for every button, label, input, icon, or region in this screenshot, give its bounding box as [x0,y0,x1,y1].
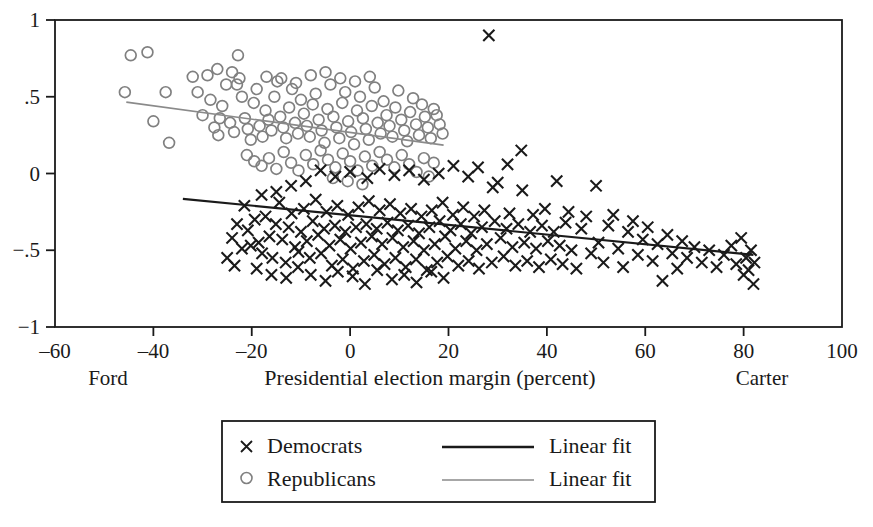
x-tick-label: –20 [235,339,268,363]
legend-label-linear-fit-republicans: Linear fit [549,466,631,491]
x-tick-label: 60 [635,339,656,363]
x-tick-label: 40 [536,339,557,363]
legend-label-republicans: Republicans [267,466,376,491]
legend-label-democrats: Democrats [267,433,362,458]
y-tick-label: 0 [30,162,41,186]
x-tick-label: 0 [345,339,356,363]
axis-endpoint-label-left: Ford [88,366,128,390]
x-tick-label: 100 [826,339,858,363]
y-tick-label: .5 [24,85,40,109]
x-axis-tick-labels: –60–40–20020406080100 [38,339,858,363]
x-tick-label: –60 [38,339,71,363]
x-tick-label: –40 [137,339,170,363]
scatter-plot-svg: −1−.50.51 –60–40–20020406080100 Ford Pre… [0,0,873,527]
y-tick-label: −.5 [12,238,40,262]
y-tick-label: 1 [30,8,41,32]
x-tick-label: 80 [733,339,754,363]
axis-endpoint-label-right: Carter [736,366,788,390]
y-tick-label: −1 [18,315,40,339]
x-axis-title: Presidential election margin (percent) [264,365,595,390]
chart-figure: −1−.50.51 –60–40–20020406080100 Ford Pre… [0,0,873,527]
legend-label-linear-fit-democrats: Linear fit [549,433,631,458]
legend: Democrats Republicans Linear fit Linear … [222,421,655,502]
x-tick-label: 20 [438,339,459,363]
